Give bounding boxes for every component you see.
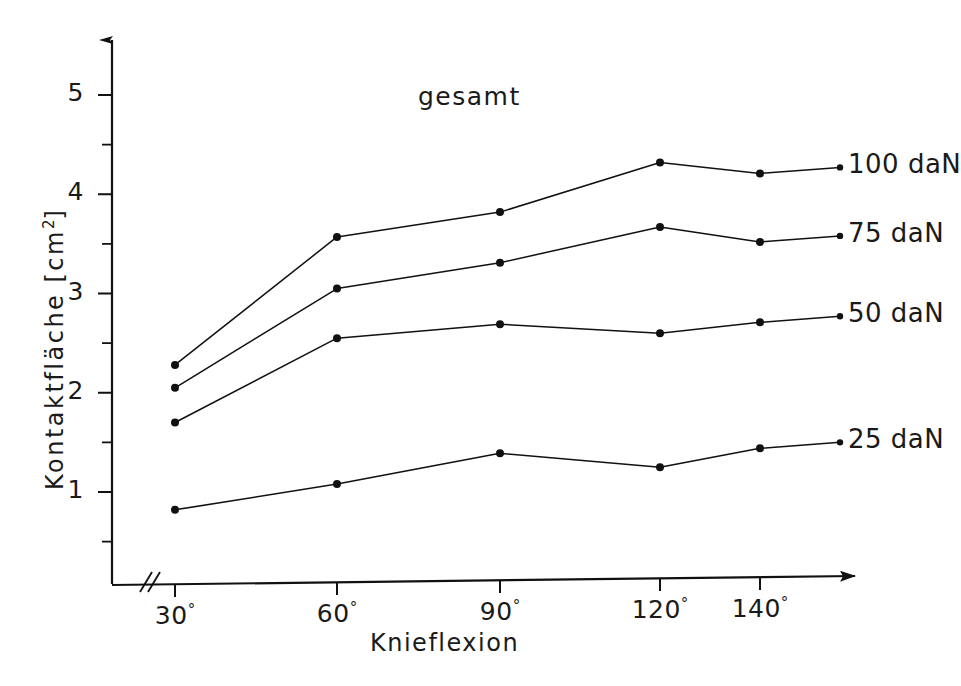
data-point-marker bbox=[333, 285, 341, 293]
y-axis-title: Kontaktfläche [cm2] bbox=[40, 208, 69, 490]
data-point-marker bbox=[656, 223, 664, 231]
degree-icon: ° bbox=[513, 597, 521, 615]
data-point-marker bbox=[837, 233, 843, 239]
series-label-50-dan: 50 daN bbox=[848, 298, 944, 328]
data-point-marker bbox=[756, 318, 764, 326]
x-tick-value: 140 bbox=[732, 594, 781, 623]
data-point-marker bbox=[756, 238, 764, 246]
series-label-100-dan: 100 daN bbox=[848, 149, 961, 179]
y-tick-group bbox=[98, 95, 112, 542]
x-axis-line bbox=[112, 576, 855, 585]
data-point-marker bbox=[837, 439, 843, 445]
degree-icon: ° bbox=[781, 594, 789, 612]
series-group bbox=[171, 158, 843, 513]
series-label-75-dan: 75 daN bbox=[848, 218, 944, 248]
x-tick-label: 140° bbox=[720, 594, 800, 623]
y-axis-title-tail: ] bbox=[41, 208, 69, 220]
chart-title: gesamt bbox=[418, 82, 521, 111]
data-point-marker bbox=[496, 449, 504, 457]
y-axis-title-exponent: 2 bbox=[40, 220, 58, 230]
series-line bbox=[175, 227, 840, 388]
degree-icon: ° bbox=[350, 599, 358, 617]
y-axis-title-base: Kontaktfläche [cm bbox=[41, 229, 69, 490]
y-tick-label: 5 bbox=[44, 78, 84, 107]
x-tick-label: 120° bbox=[620, 595, 700, 624]
data-point-marker bbox=[656, 158, 664, 166]
data-point-marker bbox=[756, 444, 764, 452]
data-point-marker bbox=[171, 506, 179, 514]
data-point-marker bbox=[496, 208, 504, 216]
x-tick-label: 60° bbox=[297, 599, 377, 628]
x-axis-title: Knieflexion bbox=[370, 629, 519, 657]
x-tick-value: 90 bbox=[480, 597, 513, 626]
x-tick-label: 30° bbox=[135, 601, 215, 630]
data-point-marker bbox=[171, 384, 179, 392]
x-tick-value: 30 bbox=[155, 601, 188, 630]
data-point-marker bbox=[333, 334, 341, 342]
data-point-marker bbox=[656, 463, 664, 471]
data-point-marker bbox=[171, 419, 179, 427]
series-label-25-dan: 25 daN bbox=[848, 424, 944, 454]
data-point-marker bbox=[171, 361, 179, 369]
degree-icon: ° bbox=[681, 595, 689, 613]
data-point-marker bbox=[333, 480, 341, 488]
data-point-marker bbox=[837, 313, 843, 319]
degree-icon: ° bbox=[188, 601, 196, 619]
series-line bbox=[175, 316, 840, 422]
axes-group bbox=[112, 40, 855, 592]
data-point-marker bbox=[837, 164, 843, 170]
series-line bbox=[175, 162, 840, 364]
data-point-marker bbox=[756, 169, 764, 177]
x-tick-value: 60 bbox=[317, 599, 350, 628]
series-line bbox=[175, 442, 840, 510]
y-tick-label: 4 bbox=[44, 177, 84, 206]
data-point-marker bbox=[333, 233, 341, 241]
y-tick-label: 1 bbox=[44, 475, 84, 504]
data-point-marker bbox=[496, 320, 504, 328]
y-tick-label: 3 bbox=[44, 277, 84, 306]
data-point-marker bbox=[656, 329, 664, 337]
data-point-marker bbox=[496, 259, 504, 267]
y-tick-label: 2 bbox=[44, 376, 84, 405]
axis-break-mark bbox=[140, 572, 160, 592]
x-tick-value: 120 bbox=[632, 595, 681, 624]
x-tick-label: 90° bbox=[460, 597, 540, 626]
